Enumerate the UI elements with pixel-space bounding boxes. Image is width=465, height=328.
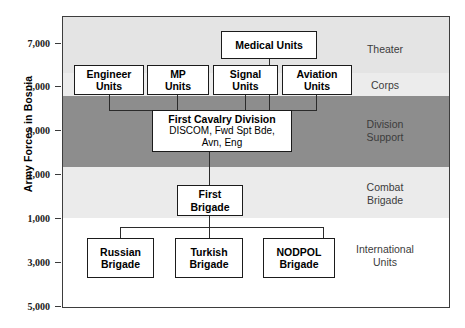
- y-tick-mark: [55, 174, 61, 175]
- connector-division-to-brigade: [209, 151, 210, 187]
- band-label-international-units: International Units: [333, 243, 437, 268]
- node-title: Engineer Units: [87, 68, 132, 93]
- node-title: NODPOL Brigade: [277, 246, 322, 271]
- connector-signal-to-division: [245, 95, 246, 111]
- node-russian-brigade[interactable]: Russian Brigade: [87, 238, 154, 278]
- y-tick-label: 1,000: [28, 213, 51, 224]
- node-title: Aviation Units: [296, 68, 337, 93]
- node-aviation-units[interactable]: Aviation Units: [282, 65, 352, 95]
- connector-brigade-stem: [209, 215, 210, 227]
- y-tick-label: 3,000: [28, 257, 51, 268]
- node-title: First Brigade: [190, 188, 229, 213]
- y-tick-mark: [55, 86, 61, 87]
- y-tick-mark: [55, 306, 61, 307]
- node-subtitle: DISCOM, Fwd Spt Bde, Avn, Eng: [169, 125, 275, 149]
- band-label-combat-brigade: Combat Brigade: [333, 181, 437, 206]
- connector-mp-to-division: [177, 95, 178, 111]
- y-tick-mark: [55, 130, 61, 131]
- y-axis-tick-labels: 7,000 5,000 3,000 1,000 1,000 3,000 5,00…: [0, 0, 58, 328]
- node-title: Russian Brigade: [100, 246, 141, 271]
- connector-international-bus: [120, 227, 324, 228]
- connector-aviation-to-division: [316, 95, 317, 111]
- node-title: First Cavalry Division: [168, 113, 275, 126]
- y-tick-label: 5,000: [28, 301, 51, 312]
- node-title: Medical Units: [235, 39, 303, 52]
- node-engineer-units[interactable]: Engineer Units: [74, 65, 144, 95]
- band-label-theater: Theater: [333, 43, 437, 56]
- node-first-brigade[interactable]: First Brigade: [177, 185, 243, 216]
- node-title: MP Units: [165, 68, 191, 93]
- node-first-cavalry-division[interactable]: First Cavalry Division DISCOM, Fwd Spt B…: [152, 110, 292, 152]
- y-tick-label: 1,000: [28, 169, 51, 180]
- y-tick-mark: [55, 43, 61, 44]
- y-tick-mark: [55, 262, 61, 263]
- node-nodpol-brigade[interactable]: NODPOL Brigade: [263, 238, 335, 278]
- node-signal-units[interactable]: Signal Units: [213, 65, 278, 95]
- node-medical-units[interactable]: Medical Units: [221, 31, 317, 59]
- y-tick-label: 7,000: [28, 38, 51, 49]
- y-tick-label: 3,000: [28, 125, 51, 136]
- node-mp-units[interactable]: MP Units: [147, 65, 209, 95]
- node-turkish-brigade[interactable]: Turkish Brigade: [175, 238, 243, 278]
- node-title: Signal Units: [230, 68, 262, 93]
- connector-engineer-to-division: [109, 95, 110, 111]
- y-tick-label: 5,000: [28, 81, 51, 92]
- band-label-division-support: Division Support: [333, 118, 437, 143]
- org-chart-plot-area: Theater Corps Division Support Combat Br…: [62, 16, 450, 308]
- node-title: Turkish Brigade: [189, 246, 228, 271]
- y-tick-mark: [55, 218, 61, 219]
